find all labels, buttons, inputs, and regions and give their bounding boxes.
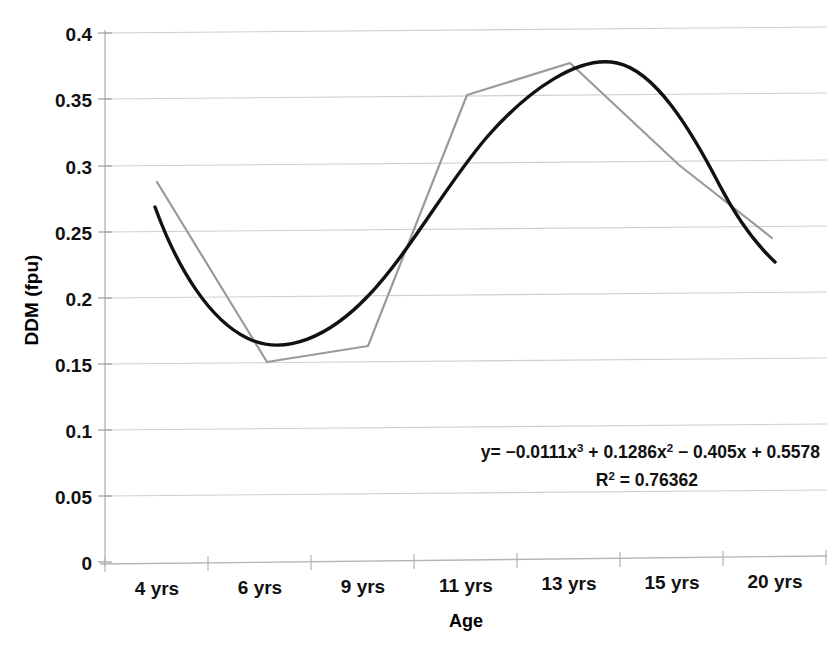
x-tick-label: 20 yrs <box>748 571 803 592</box>
y-tick-label: 0.3 <box>66 157 92 178</box>
y-tick-label: 0 <box>81 553 92 574</box>
x-tick-label: 6 yrs <box>238 577 282 598</box>
x-axis-title: Age <box>449 611 483 631</box>
y-axis-title: DDM (fpu) <box>21 255 42 346</box>
y-tick-label: 0.2 <box>66 289 92 310</box>
y-tick-label: 0.35 <box>55 90 92 111</box>
equation-mid-1: + 0.1286x <box>583 442 666 462</box>
chart-svg: 0.4 0.35 0.3 0.25 0.2 0.15 0.1 0.05 0 DD… <box>0 0 839 651</box>
r-squared-prefix: R <box>596 470 609 490</box>
chart-background <box>0 0 839 651</box>
y-tick-label: 0.4 <box>66 24 93 45</box>
y-tick-label: 0.05 <box>55 487 92 508</box>
x-tick-label: 9 yrs <box>341 576 385 597</box>
y-tick-label: 0.15 <box>55 355 92 376</box>
chart-container: 0.4 0.35 0.3 0.25 0.2 0.15 0.1 0.05 0 DD… <box>0 0 839 651</box>
x-tick-label: 13 yrs <box>542 573 597 594</box>
equation-text: y= −0.0111x3 + 0.1286x2 − 0.405x + 0.557… <box>481 442 821 462</box>
x-tick-label: 15 yrs <box>645 572 700 593</box>
r-squared-value: = 0.76362 <box>615 470 698 490</box>
x-tick-label: 11 yrs <box>439 575 493 596</box>
x-tick-label: 4 yrs <box>135 578 179 599</box>
equation-mid-2: − 0.405x + 0.5578 <box>673 442 820 462</box>
y-tick-label: 0.25 <box>55 223 92 244</box>
equation-prefix: y= −0.0111x <box>481 442 578 462</box>
y-tick-label: 0.1 <box>66 421 93 442</box>
